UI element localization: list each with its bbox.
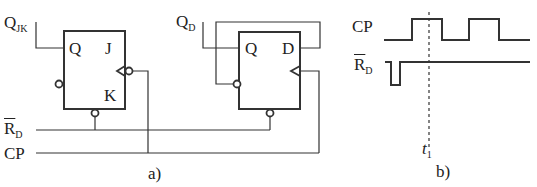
q-jk-label: QJK xyxy=(4,14,27,34)
cp-waveform xyxy=(384,19,530,40)
d-qbar-bubble xyxy=(234,81,241,88)
d-reset-bubble xyxy=(267,110,274,117)
jk-pin-k: K xyxy=(104,87,116,104)
jk-qbar-bubble xyxy=(56,81,63,88)
d-pin-q: Q xyxy=(245,40,257,57)
jk-reset-bubble xyxy=(92,110,99,117)
jk-pin-q: Q xyxy=(69,40,81,57)
d-pin-d: D xyxy=(282,40,294,57)
jk-pin-j: J xyxy=(105,40,112,57)
figure-b-caption: b) xyxy=(436,163,450,180)
d-clock-triangle xyxy=(291,66,300,76)
jk-clock-triangle xyxy=(117,66,125,76)
d-q-output-wire xyxy=(203,22,239,48)
circuit-diagram xyxy=(0,0,537,187)
t1-label: t1 xyxy=(422,140,432,160)
d-clock-wire xyxy=(300,71,319,153)
rd-wave-label: RD xyxy=(354,56,373,76)
figure-a-caption: a) xyxy=(148,165,161,182)
cp-wave-label: CP xyxy=(352,18,373,35)
q-d-label: QD xyxy=(176,13,196,33)
jk-clock-bubble xyxy=(126,68,133,75)
clock-label: CP xyxy=(4,145,25,162)
reset-label: RD xyxy=(4,120,23,140)
rd-waveform xyxy=(385,62,530,85)
jk-clock-wire xyxy=(133,71,148,153)
jk-q-output-wire xyxy=(36,22,64,48)
